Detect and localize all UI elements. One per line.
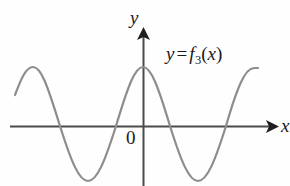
function-variable: x: [208, 43, 216, 64]
figure-container: y x 0 y=f3(x): [0, 0, 290, 186]
origin-label: 0: [126, 128, 136, 147]
function-equation-label: y=f3(x): [166, 44, 222, 66]
graph-canvas: [0, 0, 290, 186]
function-curve: [15, 67, 258, 181]
y-axis-label: y: [130, 8, 138, 27]
close-paren: ): [216, 43, 222, 64]
equals-sign: =: [174, 43, 189, 64]
x-axis-label: x: [281, 116, 289, 135]
